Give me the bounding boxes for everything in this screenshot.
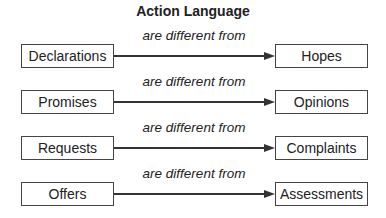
arrow-line [114,55,266,57]
left-box: Declarations [21,44,114,68]
comparison-row: Promises are different from Opinions [0,74,386,114]
relation-label: are different from [114,120,274,135]
comparison-row: Offers are different from Assessments [0,166,386,206]
relation-label: are different from [114,74,274,89]
right-box: Hopes [275,44,368,68]
arrow-head-icon [264,144,275,152]
arrow-head-icon [264,190,275,198]
right-box: Opinions [275,90,368,114]
right-box: Assessments [275,182,368,206]
relation-label: are different from [114,28,274,43]
arrow-head-icon [264,98,275,106]
diagram-title: Action Language [0,3,386,19]
relation-label: are different from [114,166,274,181]
arrow-head-icon [264,52,275,60]
comparison-row: Requests are different from Complaints [0,120,386,160]
comparison-row: Declarations are different from Hopes [0,28,386,68]
left-box: Promises [21,90,114,114]
left-box: Requests [21,136,114,160]
arrow-line [114,101,266,103]
left-box: Offers [21,182,114,206]
arrow-line [114,147,266,149]
arrow-line [114,193,266,195]
right-box: Complaints [275,136,368,160]
